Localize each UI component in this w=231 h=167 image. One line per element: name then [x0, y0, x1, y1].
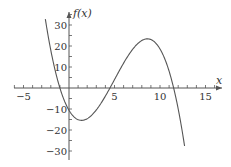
x-tick-label: 10 — [154, 91, 167, 102]
y-axis-arrow-icon — [67, 12, 72, 18]
y-tick-label: 30 — [54, 20, 67, 31]
y-tick-label: 20 — [54, 41, 67, 52]
x-tick-label: 15 — [199, 91, 212, 102]
y-tick-label: 10 — [54, 62, 67, 73]
y-tick-label: −10 — [46, 104, 67, 115]
axes — [14, 12, 222, 160]
x-tick-label: −5 — [16, 91, 31, 102]
chart: −551015302010−10−20−30 x f(x) — [0, 0, 231, 167]
y-tick-label: −30 — [46, 146, 67, 157]
y-tick-label: −20 — [46, 125, 67, 136]
ticks — [14, 15, 214, 152]
x-axis-label: x — [216, 74, 223, 87]
x-tick-label: 5 — [111, 91, 117, 102]
y-axis-label: f(x) — [72, 7, 92, 20]
